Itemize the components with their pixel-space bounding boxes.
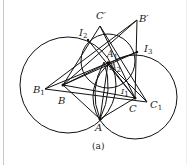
label-b-prime: B′ <box>138 13 149 24</box>
segment-b-aprime <box>63 85 100 119</box>
point-b <box>62 84 65 87</box>
label-c1: C1 <box>150 99 162 112</box>
point-c <box>134 97 137 100</box>
label-b1: B1 <box>32 84 45 97</box>
segment-bprime-b <box>63 20 137 85</box>
label-a-prime: A′ <box>94 122 105 133</box>
point-aprime <box>99 118 102 121</box>
label-a1: A1 <box>106 49 118 61</box>
figure-caption: (a) <box>92 141 104 151</box>
label-i3: I3 <box>143 43 152 56</box>
point-i3 <box>136 51 138 53</box>
label-c-prime: C′ <box>96 10 107 21</box>
label-b: B <box>57 95 65 106</box>
geometry-diagram: C′ B′ I2 I3 I1 A1 A2 B1 B C C1 A′ (a) <box>0 0 188 165</box>
label-c: C <box>129 103 137 114</box>
figure-frame: C′ B′ I2 I3 I1 A1 A2 B1 B C C1 A′ (a) <box>0 0 188 165</box>
